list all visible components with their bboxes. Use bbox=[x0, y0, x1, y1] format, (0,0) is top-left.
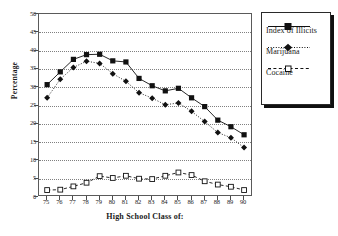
data-point-marker bbox=[162, 102, 168, 108]
x-axis-tick-mark bbox=[72, 196, 73, 200]
y-axis-tick-mark bbox=[34, 141, 38, 142]
x-axis-tick-mark bbox=[86, 196, 87, 200]
data-point-marker bbox=[215, 118, 220, 123]
data-point-marker bbox=[149, 95, 155, 101]
data-point-marker bbox=[229, 184, 234, 189]
data-point-marker bbox=[84, 52, 89, 57]
data-point-marker bbox=[189, 95, 194, 100]
x-axis-tick-mark bbox=[243, 196, 244, 200]
x-axis-tick-mark bbox=[99, 196, 100, 200]
y-axis-tick-mark bbox=[34, 105, 38, 106]
data-point-marker bbox=[123, 59, 128, 64]
x-axis-title: High School Class of: bbox=[38, 212, 252, 221]
x-axis-tick-labels: 75767778798081828384858687888990 bbox=[38, 198, 252, 210]
data-point-marker bbox=[241, 132, 246, 137]
data-point-marker bbox=[136, 90, 142, 96]
series-line bbox=[47, 172, 244, 190]
x-axis-tick-mark bbox=[112, 196, 113, 200]
series-lines bbox=[39, 14, 253, 197]
legend-marker-filled-diamond bbox=[266, 38, 312, 47]
data-point-marker bbox=[84, 58, 90, 64]
y-axis-tick-labels: 05101520253035404550 bbox=[14, 0, 36, 236]
data-point-marker bbox=[70, 64, 76, 70]
y-axis-tick-mark bbox=[34, 196, 38, 197]
data-point-marker bbox=[202, 104, 207, 109]
y-axis-tick-mark bbox=[34, 178, 38, 179]
x-axis-tick-mark bbox=[230, 196, 231, 200]
data-point-marker bbox=[45, 82, 50, 87]
data-point-marker bbox=[110, 58, 115, 63]
data-point-marker bbox=[189, 108, 195, 114]
y-axis-tick-mark bbox=[34, 31, 38, 32]
data-point-marker bbox=[58, 187, 63, 192]
data-point-marker bbox=[84, 180, 89, 185]
data-point-marker bbox=[175, 100, 181, 106]
data-point-marker bbox=[189, 173, 194, 178]
data-point-marker bbox=[71, 184, 76, 189]
x-axis-tick-mark bbox=[125, 196, 126, 200]
data-point-marker bbox=[137, 176, 142, 181]
y-axis-tick-mark bbox=[34, 123, 38, 124]
data-point-marker bbox=[44, 95, 50, 101]
x-axis-tick-mark bbox=[204, 196, 205, 200]
series-line bbox=[47, 61, 244, 147]
y-axis-tick-mark bbox=[34, 50, 38, 51]
x-axis-tick-mark bbox=[191, 196, 192, 200]
data-point-marker bbox=[150, 83, 155, 88]
data-point-marker bbox=[202, 179, 207, 184]
data-point-marker bbox=[97, 52, 102, 57]
plot-area bbox=[38, 13, 252, 196]
data-point-marker bbox=[242, 188, 247, 193]
data-point-marker bbox=[215, 182, 220, 187]
data-point-marker bbox=[163, 173, 168, 178]
data-point-marker bbox=[110, 176, 115, 181]
data-point-marker bbox=[228, 124, 233, 129]
data-point-marker bbox=[176, 86, 181, 91]
data-point-marker bbox=[45, 188, 50, 193]
x-axis-tick-mark bbox=[59, 196, 60, 200]
chart-container: 05101520253035404550 Percentage 75767778… bbox=[0, 0, 338, 236]
legend-marker-filled-square bbox=[266, 17, 312, 26]
data-point-marker bbox=[57, 76, 63, 82]
data-point-marker bbox=[124, 173, 129, 178]
legend-entry-marijuana: Marijuana bbox=[266, 38, 326, 57]
y-axis-tick-mark bbox=[34, 13, 38, 14]
y-axis-tick-mark bbox=[34, 68, 38, 69]
legend-marker-open-square bbox=[266, 59, 312, 68]
legend-entry-index-of-illicits: Index of Illicits bbox=[266, 17, 326, 36]
data-point-marker bbox=[71, 57, 76, 62]
data-point-marker bbox=[136, 76, 141, 81]
data-point-marker bbox=[163, 88, 168, 93]
data-point-marker bbox=[241, 145, 247, 151]
x-axis-tick-mark bbox=[46, 196, 47, 200]
x-axis-tick-mark bbox=[138, 196, 139, 200]
legend-entry-cocaine: Cocaine bbox=[266, 59, 326, 78]
x-axis-tick-mark bbox=[151, 196, 152, 200]
data-point-marker bbox=[58, 69, 63, 74]
x-axis-tick-mark bbox=[177, 196, 178, 200]
legend: Index of Illicits Marijuana Cocaine bbox=[261, 12, 331, 105]
data-point-marker bbox=[97, 174, 102, 179]
x-axis-tick-mark bbox=[217, 196, 218, 200]
y-axis-title: Percentage bbox=[10, 51, 19, 111]
data-point-marker bbox=[176, 170, 181, 175]
y-axis-tick-mark bbox=[34, 159, 38, 160]
data-point-marker bbox=[228, 135, 234, 141]
x-axis-tick-mark bbox=[164, 196, 165, 200]
y-axis-tick-mark bbox=[34, 86, 38, 87]
data-point-marker bbox=[150, 177, 155, 182]
